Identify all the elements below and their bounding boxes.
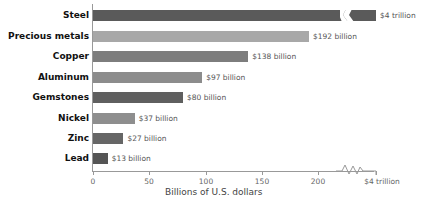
category-label: Zinc	[68, 133, 89, 144]
category-label: Copper	[53, 51, 89, 62]
value-label: $80 billion	[187, 92, 226, 103]
value-label: $27 billion	[127, 133, 166, 144]
x-tick-label: $4 trillion	[364, 177, 400, 186]
value-label: $97 billion	[206, 72, 245, 83]
value-label: $13 billion	[112, 153, 151, 164]
value-label: $138 billion	[252, 51, 296, 62]
value-label: $37 billion	[139, 113, 178, 124]
category-label: Aluminum	[38, 72, 89, 83]
x-tick	[206, 171, 207, 175]
bar	[93, 133, 123, 144]
category-label: Lead	[65, 153, 89, 164]
bar-break-icon	[340, 9, 354, 22]
x-tick-label: 150	[255, 177, 269, 186]
x-tick	[318, 171, 319, 175]
axis-break-icon	[336, 162, 378, 176]
x-tick-label: 0	[91, 177, 96, 186]
bar	[93, 113, 135, 124]
x-axis-line	[92, 171, 374, 172]
category-label: Steel	[63, 10, 89, 21]
x-tick	[149, 171, 150, 175]
x-tick	[376, 171, 377, 175]
category-label: Nickel	[58, 113, 89, 124]
x-tick-label: 200	[311, 177, 325, 186]
x-axis-title: Billions of U.S. dollars	[165, 187, 262, 197]
x-tick	[93, 171, 94, 175]
bar	[93, 31, 309, 42]
value-label: $192 billion	[313, 31, 357, 42]
x-tick-label: 50	[144, 177, 154, 186]
x-tick-label: 100	[199, 177, 213, 186]
value-label: $4 trillion	[380, 10, 416, 21]
category-label: Gemstones	[32, 92, 89, 103]
category-label: Precious metals	[8, 31, 89, 42]
bar	[93, 153, 108, 164]
x-tick	[262, 171, 263, 175]
bar	[93, 92, 183, 103]
bar	[93, 10, 376, 21]
y-axis-line	[92, 4, 93, 172]
bar	[93, 72, 202, 83]
bar	[93, 51, 248, 62]
